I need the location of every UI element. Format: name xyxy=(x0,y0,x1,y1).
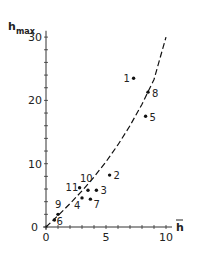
data-point xyxy=(86,189,89,192)
data-point xyxy=(80,196,83,199)
point-label: 6 xyxy=(56,216,62,227)
x-tick-label: 10 xyxy=(159,231,173,244)
x-tick-label: 5 xyxy=(103,231,110,244)
fit-curve xyxy=(46,37,166,227)
data-point xyxy=(89,197,92,200)
x-tick-label: 0 xyxy=(43,231,50,244)
point-label: 8 xyxy=(152,88,158,99)
y-tick-label: 10 xyxy=(28,158,42,171)
fit-curve-path xyxy=(46,37,166,227)
point-label: 5 xyxy=(150,112,156,123)
data-point xyxy=(95,189,98,192)
scatter-chart: 10203000510 1234567891011 h max h xyxy=(0,0,200,253)
data-point xyxy=(56,213,59,216)
data-point xyxy=(78,186,81,189)
y-origin-label: 0 xyxy=(31,221,38,234)
axes: 10203000510 xyxy=(28,31,173,244)
data-point xyxy=(144,115,147,118)
data-points: 1234567891011 xyxy=(53,73,159,227)
x-axis-label: h xyxy=(176,221,184,234)
point-label: 11 xyxy=(66,182,79,193)
point-label: 7 xyxy=(93,199,99,210)
y-axis-label: h xyxy=(8,20,16,33)
point-label: 1 xyxy=(124,73,130,84)
point-label: 9 xyxy=(55,199,61,210)
data-point xyxy=(146,90,149,93)
point-label: 3 xyxy=(100,185,106,196)
point-label: 4 xyxy=(74,200,80,211)
y-tick-label: 20 xyxy=(28,94,42,107)
point-label: 10 xyxy=(80,173,93,184)
data-point xyxy=(108,173,111,176)
y-axis-label-subscript: max xyxy=(16,27,36,36)
data-point xyxy=(132,77,135,80)
point-label: 2 xyxy=(114,170,120,181)
